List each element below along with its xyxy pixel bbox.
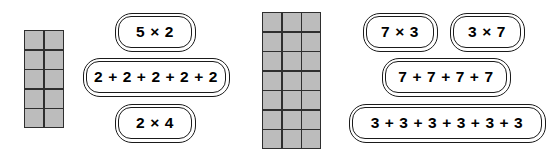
expression-5-times-2[interactable]: 5 × 2 (118, 16, 192, 48)
array-cell (45, 90, 63, 108)
array-cell (283, 72, 301, 90)
expression-2-plus-repeated[interactable]: 2 + 2 + 2 + 2 + 2 (86, 61, 226, 93)
array-cell (25, 109, 43, 127)
array-cell (45, 31, 63, 49)
expression-label: 5 × 2 (136, 24, 174, 40)
array-cell (263, 130, 281, 148)
array-cell (25, 70, 43, 88)
array-cell (283, 33, 301, 51)
array-cell (263, 33, 281, 51)
expression-3-plus-repeated[interactable]: 3 + 3 + 3 + 3 + 3 + 3 (352, 107, 542, 139)
array-cell (45, 51, 63, 69)
array-cell (283, 13, 301, 31)
array-cell (302, 91, 320, 109)
array-cell (302, 13, 320, 31)
expression-7-plus-repeated[interactable]: 7 + 7 + 7 + 7 (385, 61, 507, 93)
array-cell (25, 31, 43, 49)
expression-7-times-3[interactable]: 7 × 3 (366, 16, 434, 48)
array-cell (283, 91, 301, 109)
array-cell (45, 109, 63, 127)
expression-2-times-4[interactable]: 2 × 4 (118, 107, 192, 139)
worksheet-canvas: 5 × 2 2 + 2 + 2 + 2 + 2 2 × 4 7 × 3 3 × … (0, 0, 557, 158)
expression-label: 2 + 2 + 2 + 2 + 2 (94, 69, 218, 85)
array-cell (283, 52, 301, 70)
array-grid-2x5 (24, 30, 64, 128)
array-cell (283, 111, 301, 129)
array-cell (302, 52, 320, 70)
array-cell (263, 91, 281, 109)
expression-label: 7 + 7 + 7 + 7 (398, 69, 493, 85)
array-cell (263, 13, 281, 31)
array-cell (263, 52, 281, 70)
expression-label: 3 + 3 + 3 + 3 + 3 + 3 (371, 115, 524, 131)
array-cell (263, 72, 281, 90)
expression-label: 2 × 4 (136, 115, 174, 131)
array-cell (45, 70, 63, 88)
array-cell (302, 72, 320, 90)
expression-label: 7 × 3 (381, 24, 419, 40)
expression-label: 3 × 7 (468, 24, 506, 40)
array-cell (302, 130, 320, 148)
array-cell (302, 111, 320, 129)
expression-3-times-7[interactable]: 3 × 7 (453, 16, 521, 48)
array-cell (302, 33, 320, 51)
array-cell (283, 130, 301, 148)
array-cell (263, 111, 281, 129)
array-grid-3x7 (262, 12, 321, 149)
array-cell (25, 90, 43, 108)
array-cell (25, 51, 43, 69)
